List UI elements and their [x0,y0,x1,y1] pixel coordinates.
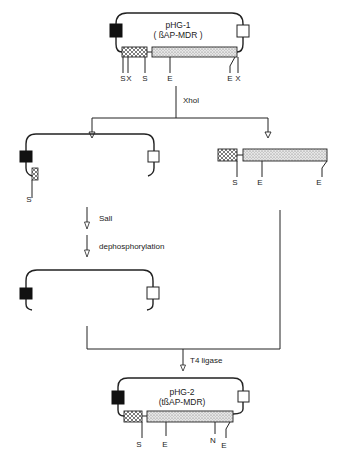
plasmid-backbone-left [116,37,122,52]
site-label: E [221,441,226,450]
site-label: X [235,74,241,83]
site-label: S [136,440,141,449]
arrow-down-icon [85,222,90,229]
plasmid-insert: ( ßAP-MDR ) [153,30,202,40]
plasmid-insert: (tßAP-MDR) [159,397,206,407]
black-marker-icon [20,288,32,299]
white-marker-icon [237,25,249,37]
site-label: S [120,74,125,83]
dephosphorylated-vector [20,270,159,310]
site-label: S [26,195,31,204]
arrow-down-icon [181,365,186,371]
plasmid-phg2: pHG-2 (tßAP-MDR) S E N E [112,378,249,450]
black-marker-icon [20,151,32,162]
arrow-down-icon [85,250,90,257]
step-label: T4 ligase [190,356,223,365]
plasmid-name: pHG-2 [169,387,194,397]
site-label: E [162,440,167,449]
hatched-segment [122,47,147,57]
hatched-stub [32,168,38,180]
black-marker-icon [110,24,122,37]
insert-fragment: S E E [218,149,327,187]
arrow-down-icon [265,132,271,138]
site-label: E [167,74,172,83]
site-label: X [126,74,132,83]
step-label: Sall [99,214,113,223]
plasmid-name: pHG-1 [165,20,190,30]
plasmid-phg1: pHG-1 ( ßAP-MDR ) S X S E E X [110,13,249,83]
stippled-mdr-segment [152,47,237,57]
black-marker-icon [112,391,124,404]
step-label: dephosphorylation [99,242,164,251]
stippled-mdr-segment [147,411,233,422]
arrow-down-icon [89,132,95,138]
plasmid-backbone-right [237,37,243,52]
site-label: E [316,178,321,187]
stippled-mdr-segment [243,149,327,161]
hatched-segment [218,149,237,161]
xhoi-step: Xhol [89,86,271,138]
ligation-step: T4 ligase [87,210,280,371]
site-label: N [210,436,216,445]
white-marker-icon [238,391,249,402]
site-label: E [257,178,262,187]
site-label: S [232,178,237,187]
white-marker-icon [147,287,159,299]
site-label: S [142,74,147,83]
white-marker-icon [148,151,159,162]
cloning-diagram: pHG-1 ( ßAP-MDR ) S X S E E X Xhol S [0,0,345,469]
hatched-segment [124,411,142,422]
vector-fragment: S [20,134,159,204]
step-label: Xhol [183,96,199,105]
site-label: E [227,74,232,83]
sali-dephos-steps: Sall dephosphorylation [85,207,165,257]
